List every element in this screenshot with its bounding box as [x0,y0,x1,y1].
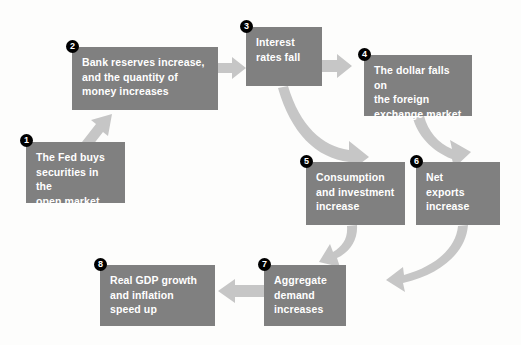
arrow-3-to-4 [322,54,352,78]
node-1-line-2: securities in the [36,165,116,194]
node-2-line-1: Bank reserves increase, [82,55,209,70]
arrow-2-to-3 [218,57,246,79]
node-8-line-2: and inflation [110,288,206,303]
node-5-number-badge: 5 [300,155,313,168]
arrow-6-to-7 [386,225,468,292]
node-1-line-1: The Fed buys [36,150,116,165]
node-box-2[interactable]: Bank reserves increase, and the quantity… [72,47,218,110]
node-box-4[interactable]: The dollar falls on the foreign exchange… [364,55,472,116]
node-8-number-badge: 8 [94,258,107,271]
node-4-line-2: the foreign [374,92,463,107]
node-box-5[interactable]: Consumption and investment increase [306,162,405,225]
node-7-line-2: demand [274,288,337,303]
node-7-line-1: Aggregate [274,273,337,288]
node-2-line-2: and the quantity of [82,70,209,85]
node-8-line-1: Real GDP growth [110,273,206,288]
node-1-number-badge: 1 [20,134,33,147]
node-box-3[interactable]: Interest rates fall [246,27,322,86]
node-box-6[interactable]: Net exports increase [416,162,500,225]
node-5-line-3: increase [316,199,396,214]
node-box-1[interactable]: The Fed buys securities in the open mark… [26,142,125,203]
node-3-line-1: Interest [256,35,313,50]
flowchart-diagram: The Fed buys securities in the open mark… [0,0,521,345]
node-7-line-3: increases [274,302,337,317]
node-6-line-2: exports [426,185,491,200]
arrow-3-to-5 [278,86,369,172]
node-3-number-badge: 3 [240,20,253,33]
node-6-line-1: Net [426,170,491,185]
arrow-5-to-7 [319,225,357,267]
node-8-line-3: speed up [110,302,206,317]
node-7-number-badge: 7 [258,258,271,271]
node-4-line-3: exchange market [374,107,463,122]
arrow-7-to-8 [218,279,264,303]
node-1-line-3: open market [36,194,116,209]
node-5-line-1: Consumption [316,170,396,185]
node-4-line-1: The dollar falls on [374,63,463,92]
node-box-7[interactable]: Aggregate demand increases [264,265,346,326]
node-2-number-badge: 2 [66,40,79,53]
node-5-line-2: and investment [316,185,396,200]
node-6-line-3: increase [426,199,491,214]
node-3-line-2: rates fall [256,50,313,65]
node-6-number-badge: 6 [410,155,423,168]
node-box-8[interactable]: Real GDP growth and inflation speed up [100,265,215,326]
node-4-number-badge: 4 [358,48,371,61]
node-2-line-3: money increases [82,84,209,99]
